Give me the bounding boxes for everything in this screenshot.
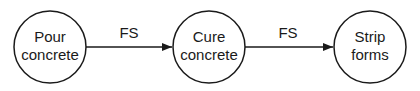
- edge-cure-to-strip: FS: [245, 24, 333, 47]
- edge-label: FS: [278, 24, 297, 41]
- node-label-line1: Strip: [355, 28, 386, 45]
- node-pour-concrete: Pour concrete: [14, 11, 86, 83]
- edge-pour-to-cure: FS: [86, 24, 172, 47]
- node-label-line2: concrete: [180, 46, 238, 63]
- node-cure-concrete: Cure concrete: [173, 11, 245, 83]
- precedence-diagram: FS FS Pour concrete Cure concrete Strip …: [0, 0, 420, 91]
- node-label-line2: concrete: [21, 46, 79, 63]
- node-label-line1: Cure: [193, 28, 226, 45]
- edge-label: FS: [119, 24, 138, 41]
- node-strip-forms: Strip forms: [334, 11, 406, 83]
- node-label-line1: Pour: [34, 28, 66, 45]
- node-label-line2: forms: [351, 46, 389, 63]
